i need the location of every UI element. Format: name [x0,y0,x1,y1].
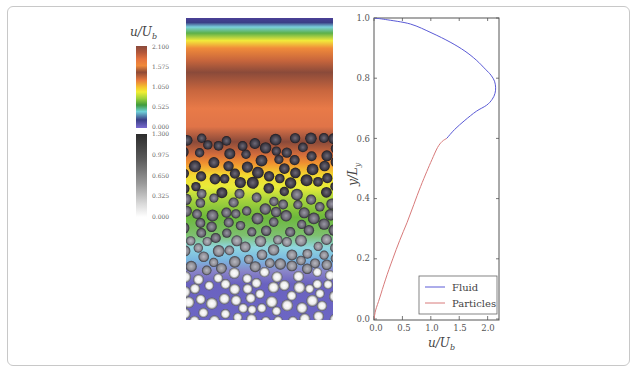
colorbar-tick: 0.000 [152,123,169,130]
particle [221,208,231,218]
particle [331,144,341,154]
particle [252,213,264,225]
particle [321,234,332,245]
particle [257,249,268,260]
particle [315,202,325,212]
particle-colorbar-gradient [136,134,147,217]
particle [198,308,208,318]
particle [236,221,245,230]
particle [269,217,279,227]
particle [214,141,224,151]
particle [180,184,190,194]
particle [261,226,271,236]
x-tick-label: 2.0 [481,323,495,333]
particle [248,305,257,314]
particle [246,314,257,325]
particle [290,133,300,143]
colorbar-tick: 0.525 [152,103,169,110]
particle [206,222,216,232]
particle [243,284,253,294]
particle [264,183,275,194]
particle [325,209,336,220]
particle [250,261,261,272]
fluid-velocity-colorbar: u/Ub 2.100 1.575 1.050 0.525 0.000 [130,25,169,130]
colorbar-tick: 1.300 [152,130,169,137]
particle [179,271,191,283]
particle [270,134,282,146]
particle [189,316,199,326]
particle [235,189,245,199]
particle [252,193,262,203]
velocity-profile-plot: 1.0 0.8 0.6 0.4 0.2 0.0 0.0 0.5 1.0 1.5 … [346,13,499,352]
particle [192,209,202,219]
particle [290,168,301,179]
legend-label-fluid: Fluid [452,282,479,293]
particle [326,198,337,209]
particle [242,274,252,284]
particle [272,306,281,315]
particle [196,198,206,208]
particle [255,236,266,247]
particle [240,242,251,253]
particle [209,258,218,267]
particle [297,220,306,229]
particle [266,296,278,308]
particle [189,160,201,172]
particle [250,138,261,149]
particle [186,261,197,272]
particle [328,133,339,144]
y-axis-label: y/Ly [346,162,362,187]
particle [287,261,298,272]
particle [225,246,235,256]
particle [291,189,303,201]
particle [273,235,282,244]
particle [247,227,256,236]
particle [268,244,279,255]
particle [251,278,261,288]
particle [190,284,200,294]
particle [213,273,223,283]
particle [295,235,307,247]
particle [178,147,189,158]
colorbar-tick: 0.325 [152,192,169,199]
y-tick-label: 0.8 [356,73,370,83]
y-tick-label: 0.0 [356,314,370,324]
particle [181,206,192,217]
particle [306,195,316,205]
particle [280,187,289,196]
particle [231,295,242,306]
y-tick-label: 0.6 [356,134,370,144]
fluid-colorbar-gradient [136,46,147,128]
particle [260,203,271,214]
particle [290,155,300,165]
particle [307,151,317,161]
particle [313,177,323,187]
x-tick-label: 1.5 [453,323,467,333]
particle [330,243,340,253]
particle [319,161,330,172]
y-tick-label: 0.4 [356,193,370,203]
particle [230,169,240,179]
particle [293,271,304,282]
particle [308,213,320,225]
particle [179,286,191,298]
particle [285,227,295,237]
particle [235,177,246,188]
particle [224,218,234,228]
particle [259,267,269,277]
colorbar-tick: 0.975 [152,151,169,158]
particle [287,250,298,261]
particle [261,316,271,326]
particle [293,282,305,294]
particle [325,270,335,280]
particle [299,313,310,324]
colorbar-tick: 1.575 [152,63,169,70]
particle [322,173,332,183]
particle [238,303,248,313]
particle [322,260,332,270]
particle [314,242,323,251]
particle [224,148,235,159]
particle [209,194,218,203]
particle [288,316,298,326]
particle [285,177,296,188]
